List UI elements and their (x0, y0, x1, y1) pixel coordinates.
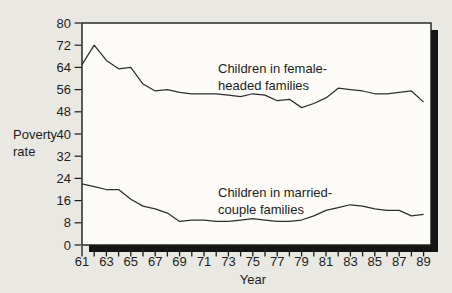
series-label-female-headed-line2: headed families (218, 78, 310, 93)
x-tick-label: 79 (294, 254, 308, 269)
y-tick-label: 16 (57, 193, 71, 208)
x-tick-label: 85 (368, 254, 382, 269)
x-tick-label: 67 (148, 254, 162, 269)
y-tick-label: 24 (57, 171, 71, 186)
x-tick-label: 83 (343, 254, 357, 269)
y-tick-label: 40 (57, 127, 71, 142)
x-tick-label: 63 (99, 254, 113, 269)
x-tick-label: 73 (221, 254, 235, 269)
x-tick-label: 61 (75, 254, 89, 269)
poverty-rate-chart: 0816243240485664728061636567697173757779… (0, 0, 452, 293)
series-label-female-headed-line1: Children in female- (218, 61, 327, 76)
x-tick-label: 89 (416, 254, 430, 269)
series-label-married-couple-line2: couple families (218, 202, 304, 217)
x-tick-label: 87 (392, 254, 406, 269)
x-tick-label: 69 (172, 254, 186, 269)
x-tick-label: 65 (124, 254, 138, 269)
y-tick-label: 72 (57, 38, 71, 53)
x-tick-label: 77 (270, 254, 284, 269)
series-label-married-couple-line1: Children in married- (218, 185, 332, 200)
y-tick-label: 48 (57, 104, 71, 119)
x-axis-label: Year (240, 272, 267, 287)
y-tick-label: 80 (57, 16, 71, 31)
x-tick-label: 71 (197, 254, 211, 269)
x-tick-label: 81 (319, 254, 333, 269)
y-tick-label: 0 (64, 238, 71, 253)
y-tick-label: 64 (57, 60, 71, 75)
y-axis-label-line2: rate (13, 144, 35, 159)
y-tick-label: 32 (57, 149, 71, 164)
y-tick-label: 8 (64, 215, 71, 230)
x-tick-label: 75 (246, 254, 260, 269)
figure-page: 0816243240485664728061636567697173757779… (0, 0, 452, 293)
y-tick-label: 56 (57, 82, 71, 97)
y-axis-label-line1: Poverty (13, 127, 58, 142)
